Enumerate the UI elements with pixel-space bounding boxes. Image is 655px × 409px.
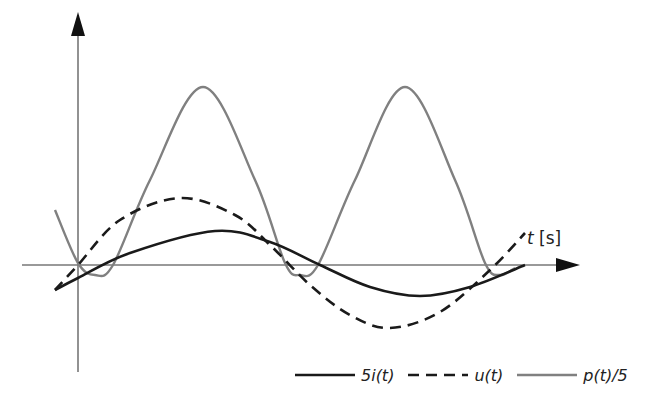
legend-item-u: u(t): [408, 366, 503, 385]
legend-item-p: p(t)/5: [517, 366, 627, 385]
series-5i: [55, 231, 525, 296]
x-axis-arrow-icon: [556, 258, 580, 272]
y-axis-arrow-icon: [71, 12, 85, 36]
legend-item-5i: 5i(t): [295, 366, 394, 385]
x-axis-variable: t: [527, 228, 534, 248]
solid-line-swatch-icon: [295, 370, 355, 380]
series-u: [55, 198, 525, 328]
x-axis-label: t [s]: [527, 228, 561, 248]
chart-canvas: [0, 0, 655, 409]
dashed-line-swatch-icon: [408, 370, 468, 380]
x-axis-unit: [s]: [539, 228, 561, 248]
legend-label: p(t)/5: [583, 366, 627, 385]
legend-label: u(t): [474, 366, 503, 385]
legend-label: 5i(t): [361, 366, 394, 385]
legend: 5i(t) u(t) p(t)/5: [295, 362, 642, 388]
gray-line-swatch-icon: [517, 370, 577, 380]
